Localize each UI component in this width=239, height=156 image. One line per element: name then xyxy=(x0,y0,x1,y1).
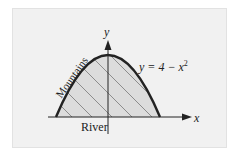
x-axis-label: x xyxy=(194,112,199,124)
equation-text: y = 4 − x xyxy=(139,60,184,74)
equation-exponent: 2 xyxy=(184,59,188,68)
equation-label: y = 4 − x2 xyxy=(139,58,188,73)
x-axis-arrow-icon xyxy=(182,114,192,121)
y-axis-arrow-icon xyxy=(105,40,112,50)
parabola-figure xyxy=(0,0,239,156)
river-label: River xyxy=(81,121,108,133)
y-axis-label: y xyxy=(104,26,109,38)
